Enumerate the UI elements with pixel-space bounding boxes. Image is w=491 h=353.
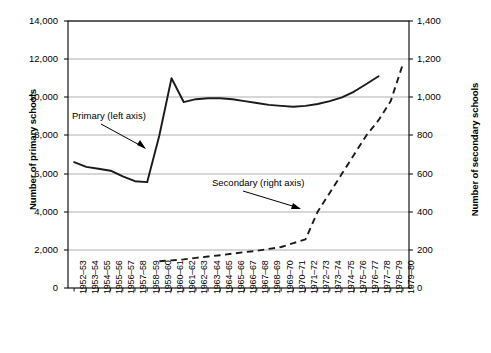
y-left-tick-2000: 2,000	[14, 244, 58, 255]
y-right-tick-1000: 1,000	[417, 91, 463, 102]
x-tick-label: 1966–67	[248, 260, 258, 294]
x-tick-label: 1955–56	[114, 260, 124, 294]
y-left-tick-12000: 12,000	[14, 53, 58, 64]
x-tick-label: 1971–72	[309, 260, 319, 294]
y-left-tick-0: 0	[14, 282, 58, 293]
x-tick-label: 1961–62	[187, 260, 197, 294]
x-tick-label: 1954–55	[102, 260, 112, 294]
x-tick-label: 1973–74	[333, 260, 343, 294]
x-tick-label: 1968–69	[272, 260, 282, 294]
plot-frame	[68, 21, 409, 288]
y-right-tick-200: 200	[417, 244, 463, 255]
x-tick-label: 1964–65	[224, 260, 234, 294]
y-left-tick-10000: 10,000	[14, 91, 58, 102]
y-left-tick-8000: 8,000	[14, 129, 58, 140]
y-right-tick-0: 0	[417, 282, 463, 293]
x-tick-label: 1957–58	[138, 260, 148, 294]
x-tick-label: 1978–79	[394, 260, 404, 294]
x-tick-label: 1956–57	[126, 260, 136, 294]
x-tick-label: 1958–59	[151, 260, 161, 294]
annotation-secondary: Secondary (right axis)	[212, 177, 304, 188]
x-tick-label: 1979–80	[406, 260, 416, 294]
x-tick-label: 1965–66	[236, 260, 246, 294]
annotation-arrow-primary	[101, 124, 146, 149]
y-right-tick-600: 600	[417, 168, 463, 179]
y-right-tick-800: 800	[417, 129, 463, 140]
y-right-tick-400: 400	[417, 206, 463, 217]
x-tick-label: 1975–76	[358, 260, 368, 294]
x-tick-label: 1976–77	[370, 260, 380, 294]
x-tick-label: 1962–63	[199, 260, 209, 294]
y-left-tick-4000: 4,000	[14, 206, 58, 217]
x-tick-label: 1963–64	[212, 260, 222, 294]
y-right-tick-1400: 1,400	[417, 15, 463, 26]
y-axis-right-title: Number of secondary schools	[469, 55, 480, 245]
series-line-secondary	[159, 64, 403, 261]
y-right-ticks	[409, 21, 413, 288]
annotation-arrow-secondary	[243, 191, 301, 209]
y-left-ticks	[64, 21, 68, 288]
y-right-tick-1200: 1,200	[417, 53, 463, 64]
x-tick-label: 1977–78	[382, 260, 392, 294]
x-tick-label: 1959–60	[163, 260, 173, 294]
x-tick-label: 1967–68	[260, 260, 270, 294]
y-left-tick-14000: 14,000	[14, 15, 58, 26]
series-line-primary	[74, 76, 378, 182]
x-tick-label: 1974–75	[346, 260, 356, 294]
x-tick-label: 1953–54	[90, 260, 100, 294]
y-left-tick-6000: 6,000	[14, 168, 58, 179]
x-tick-label: 1952–53	[78, 260, 88, 294]
chart-figure: Number of primary schools Number of seco…	[0, 0, 491, 353]
x-tick-label: 1960–61	[175, 260, 185, 294]
annotation-primary: Primary (left axis)	[72, 110, 146, 121]
x-tick-label: 1969–70	[285, 260, 295, 294]
gridlines	[68, 21, 409, 250]
x-tick-label: 1972–73	[321, 260, 331, 294]
x-tick-label: 1970–71	[297, 260, 307, 294]
